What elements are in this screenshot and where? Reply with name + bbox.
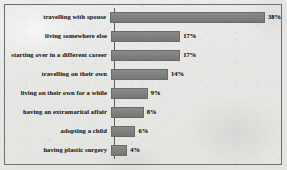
bar-category-label: having an extramarital affair [5,109,111,116]
bar-track: 6% [111,122,281,141]
bar-track: 9% [111,84,281,103]
bar [111,69,168,80]
bar-category-label: having plastic surgery [5,147,111,154]
bar-track: 4% [111,141,281,160]
bar-category-label: travelling with spouse [5,14,110,21]
bar-track: 14% [111,65,281,84]
bar-value-label: 4% [130,147,140,154]
bar [111,50,180,61]
bar [111,31,180,42]
bar-chart-plot-area: travelling with spouse38%living somewher… [5,5,281,164]
bar-track: 17% [111,46,281,65]
chart-screenshot: travelling with spouse38%living somewher… [0,0,287,170]
bar-category-label: living on their own for a while [5,90,111,97]
bar-rows: travelling with spouse38%living somewher… [5,8,281,160]
bar-value-label: 38% [268,14,281,21]
bar-value-label: 14% [171,71,184,78]
bar-category-label: travelling on their own [5,71,111,78]
bar-value-label: 17% [183,33,196,40]
bar-track: 17% [111,27,281,46]
bar-value-label: 8% [147,109,157,116]
bar-row: travelling with spouse38% [5,8,281,27]
bar [111,126,135,137]
bar [111,88,148,99]
bar-row: travelling on their own14% [5,65,281,84]
bar-value-label: 9% [151,90,161,97]
bar-value-label: 6% [138,128,148,135]
bar-track: 8% [111,103,281,122]
bar [111,107,144,118]
bar [111,145,127,156]
bar-track: 38% [110,8,281,27]
bar-value-label: 17% [183,52,196,59]
bar-row: adopting a child6% [5,122,281,141]
bar [110,12,265,23]
bar-category-label: adopting a child [5,128,111,135]
bar-category-label: starting over in a different career [5,52,111,59]
bar-row: having an extramarital affair8% [5,103,281,122]
bar-row: living on their own for a while9% [5,84,281,103]
bar-category-label: living somewhere else [5,33,111,40]
bar-row: living somewhere else17% [5,27,281,46]
bar-row: having plastic surgery4% [5,141,281,160]
bar-row: starting over in a different career17% [5,46,281,65]
